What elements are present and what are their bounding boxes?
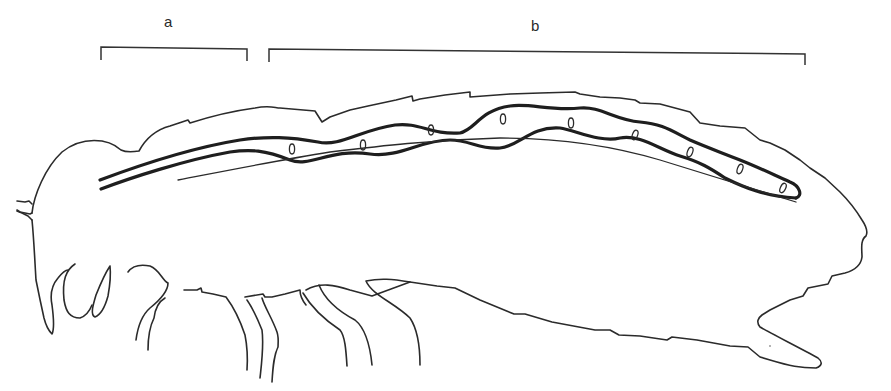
oval-marking-9 (779, 182, 788, 193)
diagram-canvas: a b (0, 0, 891, 391)
leg-4-outer (247, 300, 263, 378)
speck (769, 345, 771, 347)
leg-5-front (303, 293, 347, 366)
tube-lower (101, 128, 796, 198)
leg-3 (128, 265, 168, 340)
oval-marking-4 (500, 114, 505, 124)
oval-marking-7 (686, 146, 694, 157)
oval-marking-1 (289, 144, 294, 154)
oval-marking-5 (568, 118, 573, 128)
leg-1 (63, 264, 92, 318)
oval-marking-8 (736, 163, 744, 174)
leg-4 (245, 290, 306, 305)
leg-2 (92, 266, 110, 317)
front-contour (32, 220, 68, 334)
leg-3-inner (148, 298, 165, 350)
leg-4-inner (262, 298, 278, 382)
bracket-b (269, 49, 805, 65)
antenna-stub-upper (17, 201, 32, 204)
larva-drawing (0, 0, 891, 391)
bracket-a (101, 47, 247, 61)
ventral-line-mid (184, 288, 247, 370)
